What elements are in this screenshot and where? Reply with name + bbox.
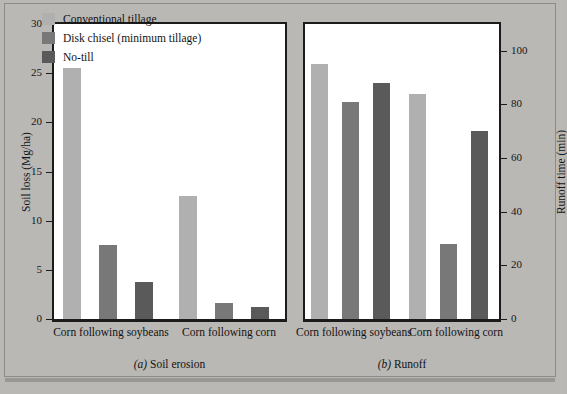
- y-axis-tick-label: 0: [511, 313, 517, 324]
- chart-panel-runoff: 020406080100 Runoff time (min): [303, 22, 501, 322]
- x-group-label-b-0: Corn following soybeans: [296, 326, 406, 338]
- y-axis-tick: [501, 265, 507, 266]
- panel-caption-a-tag: (a): [134, 358, 147, 370]
- y-axis-tick: [501, 51, 507, 52]
- bar: [215, 303, 233, 319]
- y-axis-tick: [501, 212, 507, 213]
- bar: [179, 196, 197, 319]
- y-axis-tick-label: 60: [511, 152, 522, 163]
- y-axis-title-b: Runoff time (min): [555, 130, 567, 214]
- axis-bottom-b: [303, 319, 501, 322]
- y-axis-title-a: Soil loss (Mg/ha): [20, 132, 32, 212]
- panel-caption-a: (a) Soil erosion: [52, 358, 287, 370]
- y-axis-tick: [46, 172, 52, 173]
- bar: [440, 244, 457, 319]
- y-axis-tick: [501, 158, 507, 159]
- legend-label: Disk chisel (minimum tillage): [63, 32, 201, 44]
- legend: Conventional tillageDisk chisel (minimum…: [42, 12, 201, 69]
- y-axis-tick-label: 40: [511, 206, 522, 217]
- y-axis-tick: [46, 221, 52, 222]
- y-axis-tick: [46, 73, 52, 74]
- y-axis-tick: [46, 122, 52, 123]
- legend-label: No-till: [63, 51, 94, 63]
- plot-area-b: [303, 22, 501, 322]
- panel-caption-b-tag: (b): [378, 358, 391, 370]
- bar: [311, 64, 328, 319]
- y-axis-tick: [46, 319, 52, 320]
- y-axis-tick-label: 10: [18, 215, 42, 226]
- panel-caption-b: (b) Runoff: [303, 358, 501, 370]
- y-axis-tick-label: 80: [511, 98, 522, 109]
- y-axis-tick-label: 0: [18, 313, 42, 324]
- legend-item: Conventional tillage: [42, 12, 201, 25]
- bar: [63, 68, 81, 319]
- y-axis-tick-label: 5: [18, 264, 42, 275]
- y-axis-tick-label: 25: [18, 67, 42, 78]
- legend-swatch-icon: [42, 51, 55, 63]
- bar: [135, 282, 153, 319]
- x-group-label-a-1: Corn following corn: [170, 326, 288, 338]
- y-axis-tick: [501, 104, 507, 105]
- axis-left-b: [303, 22, 305, 322]
- axis-top-b: [303, 22, 501, 24]
- x-group-label-a-0: Corn following soybeans: [52, 326, 170, 338]
- bar: [409, 94, 426, 319]
- panel-caption-a-text: Soil erosion: [150, 358, 205, 370]
- bar: [373, 83, 390, 319]
- legend-swatch-icon: [42, 13, 55, 25]
- legend-label: Conventional tillage: [63, 13, 157, 25]
- bar: [342, 102, 359, 319]
- bar: [251, 307, 269, 319]
- legend-item: Disk chisel (minimum tillage): [42, 31, 201, 44]
- bar: [99, 245, 117, 319]
- y-axis-tick-label: 20: [18, 116, 42, 127]
- figure-bottom-rule: [5, 378, 555, 382]
- axis-bottom-a: [52, 319, 287, 322]
- legend-item: No-till: [42, 50, 201, 63]
- axis-right-a: [285, 22, 287, 322]
- panel-caption-b-text: Runoff: [394, 358, 426, 370]
- y-axis-tick-label: 30: [18, 18, 42, 29]
- y-axis-tick: [46, 270, 52, 271]
- x-group-label-b-1: Corn following corn: [406, 326, 506, 338]
- axis-right-b: [499, 22, 501, 322]
- y-axis-tick-label: 20: [511, 259, 522, 270]
- y-axis-tick-label: 100: [511, 45, 528, 56]
- y-axis-tick: [501, 319, 507, 320]
- bar: [471, 131, 488, 319]
- legend-swatch-icon: [42, 32, 55, 44]
